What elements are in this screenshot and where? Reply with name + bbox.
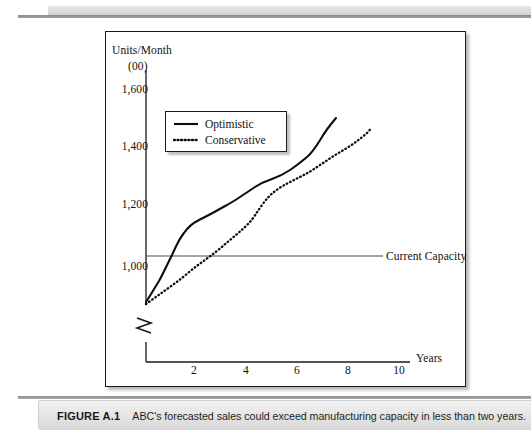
legend-label-optimistic: Optimistic bbox=[205, 118, 254, 130]
legend-label-conservative: Conservative bbox=[205, 134, 266, 146]
series-line-conservative bbox=[146, 128, 371, 304]
figure-caption-band: FIGURE A.1 ABC's forecasted sales could … bbox=[0, 394, 531, 436]
legend-item-optimistic: Optimistic bbox=[173, 117, 254, 131]
top-horizontal-rule bbox=[18, 15, 531, 18]
chart-legend: Optimistic Conservative bbox=[165, 111, 287, 152]
x-axis-title: Years bbox=[416, 352, 442, 364]
figure-caption-text: ABC's forecasted sales could exceed manu… bbox=[132, 410, 526, 422]
x-tick-label-4: 4 bbox=[234, 364, 258, 376]
page-top-band bbox=[0, 0, 531, 30]
caption-horizontal-rule bbox=[18, 396, 531, 399]
y-tick-label-1400: 1,400 bbox=[106, 140, 148, 152]
y-axis-title-line1: Units/Month bbox=[112, 44, 172, 56]
x-tick-label-6: 6 bbox=[285, 364, 309, 376]
legend-item-conservative: Conservative bbox=[173, 133, 266, 147]
chart-plot-area bbox=[105, 31, 466, 387]
y-tick-label-1000: 1,000 bbox=[106, 260, 148, 272]
x-tick-label-8: 8 bbox=[336, 364, 360, 376]
legend-swatch-dotted-icon bbox=[173, 135, 199, 145]
y-tick-label-1600: 1,600 bbox=[106, 83, 148, 95]
current-capacity-label: Current Capacity bbox=[386, 250, 466, 262]
axis-break-icon bbox=[137, 318, 151, 333]
x-tick-label-10: 10 bbox=[387, 364, 411, 376]
legend-swatch-solid-icon bbox=[173, 119, 199, 129]
y-axis-title-line2: (00) bbox=[128, 60, 148, 72]
figure-caption: FIGURE A.1 ABC's forecasted sales could … bbox=[38, 400, 531, 430]
top-grey-bar bbox=[48, 6, 531, 15]
x-tick-label-2: 2 bbox=[182, 364, 206, 376]
y-tick-label-1200: 1,200 bbox=[106, 198, 148, 210]
figure-caption-label: FIGURE A.1 bbox=[57, 410, 120, 422]
